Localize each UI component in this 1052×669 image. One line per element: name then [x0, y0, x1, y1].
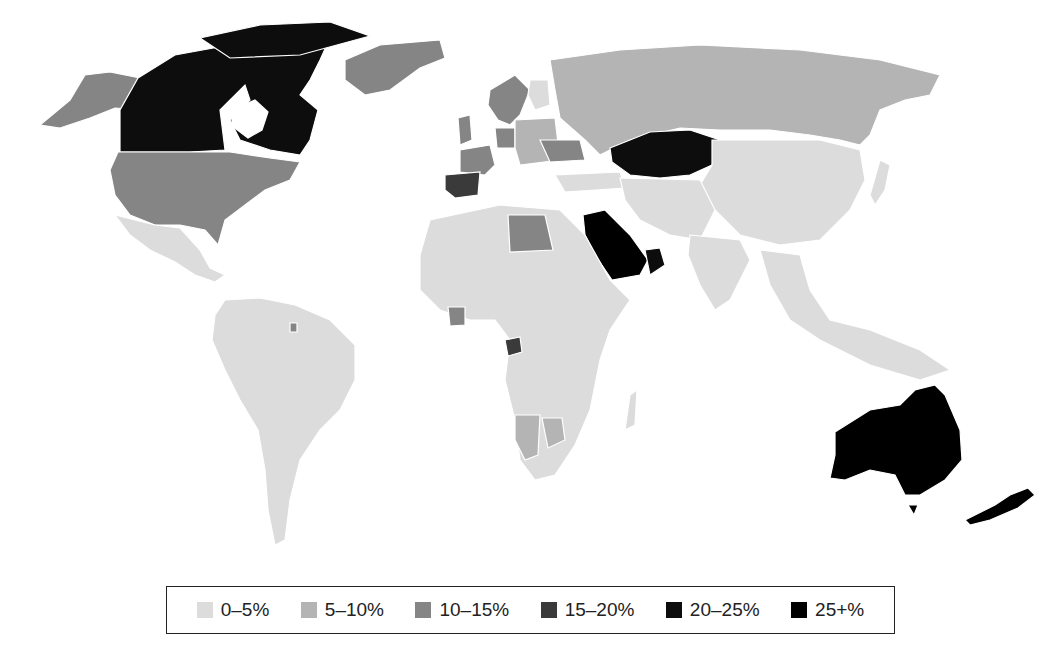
- legend-item-10-15: 10–15%: [415, 599, 509, 621]
- region-spain: [445, 172, 480, 198]
- region-libya: [508, 215, 553, 252]
- legend-item-20-25: 20–25%: [666, 599, 760, 621]
- legend-swatch: [197, 602, 213, 618]
- region-india: [688, 235, 750, 310]
- legend-item-15-20: 15–20%: [541, 599, 635, 621]
- region-finland: [528, 80, 550, 110]
- region-madagascar: [625, 390, 637, 430]
- region-canada-islands: [200, 22, 370, 58]
- legend-swatch: [415, 602, 431, 618]
- region-germany: [495, 128, 515, 148]
- world-map: [0, 0, 1052, 580]
- legend-label: 25+%: [815, 599, 864, 621]
- legend-swatch: [541, 602, 557, 618]
- region-new-zealand: [965, 488, 1035, 525]
- legend-label: 5–10%: [325, 599, 384, 621]
- region-greenland: [345, 40, 445, 95]
- region-scandinavia: [488, 75, 530, 125]
- region-tasmania: [908, 505, 918, 515]
- legend-label: 20–25%: [690, 599, 760, 621]
- region-gabon: [505, 337, 522, 356]
- legend-label: 10–15%: [439, 599, 509, 621]
- region-south-america: [212, 298, 355, 545]
- region-oman: [645, 248, 665, 275]
- legend-item-25-plus: 25+%: [791, 599, 864, 621]
- region-russia: [550, 45, 940, 155]
- legend-item-5-10: 5–10%: [301, 599, 384, 621]
- region-china-mongolia: [700, 140, 865, 245]
- legend-swatch: [791, 602, 807, 618]
- region-australia: [830, 385, 962, 495]
- region-japan: [870, 160, 890, 205]
- legend-swatch: [301, 602, 317, 618]
- region-suriname: [290, 323, 297, 332]
- region-southeast-asia: [760, 250, 950, 380]
- map-legend: 0–5% 5–10% 10–15% 15–20% 20–25% 25+%: [166, 586, 895, 634]
- legend-label: 15–20%: [565, 599, 635, 621]
- legend-label: 0–5%: [221, 599, 270, 621]
- region-uk: [458, 115, 472, 145]
- legend-swatch: [666, 602, 682, 618]
- region-middle-east-asia: [620, 178, 715, 240]
- legend-item-0-5: 0–5%: [197, 599, 270, 621]
- region-turkey: [555, 172, 625, 192]
- region-france: [460, 145, 495, 175]
- region-cote-divoire: [448, 307, 465, 326]
